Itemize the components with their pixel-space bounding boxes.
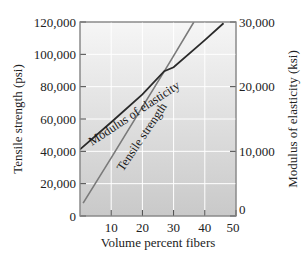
y-tick-label: 40,000 (40, 144, 76, 159)
x-tick-label: 20 (136, 220, 149, 235)
x-tick-label: 50 (227, 220, 240, 235)
chart: Modulus of elasticity Tensile strength 0… (0, 0, 307, 262)
y2-tick-label: 10,000 (239, 144, 275, 159)
y-tick-label: 80,000 (40, 79, 76, 94)
x-tick-label: 10 (105, 220, 118, 235)
y-tick-label: 120,000 (34, 15, 76, 30)
right-axis-title: Modulus of elasticity (ksi) (285, 50, 300, 188)
y2-tick-label: 20,000 (239, 79, 275, 94)
y-tick-label: 20,000 (40, 176, 76, 191)
x-tick-label: 30 (167, 220, 180, 235)
right-axis-tick-labels: 010,00020,00030,000 (239, 15, 275, 218)
y2-tick-label: 0 (239, 202, 246, 217)
y-tick-label: 60,000 (40, 112, 76, 127)
y2-tick-label: 30,000 (239, 15, 275, 30)
x-axis-tick-labels: 1020304050 (105, 220, 240, 235)
x-axis-title: Volume percent fibers (101, 235, 216, 250)
left-axis-tick-labels: 020,00040,00060,00080,000100,000120,000 (34, 15, 76, 224)
y-tick-label: 0 (70, 209, 77, 224)
left-axis-title: Tensile strength (psi) (10, 64, 25, 174)
x-tick-label: 40 (198, 220, 211, 235)
y-tick-label: 100,000 (34, 47, 76, 62)
